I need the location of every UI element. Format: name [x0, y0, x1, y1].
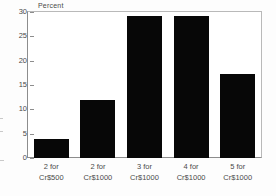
- y-axis-tick-label: 5: [23, 129, 27, 138]
- y-axis-tick-label: 10: [19, 104, 27, 113]
- y-axis-tick-label: 30: [19, 7, 27, 16]
- bar: [220, 74, 255, 158]
- y-axis-tick-label: 25: [19, 31, 27, 40]
- bar: [34, 139, 69, 158]
- x-axis-tick-label-line: Cr$1000: [75, 173, 122, 184]
- y-axis-tick-label: 20: [19, 56, 27, 65]
- x-axis-tick-label-line: Cr$1000: [214, 173, 261, 184]
- bar-chart-figure: Percent 051015202530 2 forCr$5002 forCr$…: [0, 0, 276, 196]
- x-axis-tick-label-line: 4 for: [168, 162, 215, 173]
- y-axis-title: Percent: [38, 2, 64, 9]
- y-axis-tick-label: 15: [19, 80, 27, 89]
- x-axis-tick-label-line: Cr$1000: [168, 173, 215, 184]
- scan-artifact: [0, 160, 4, 161]
- bar: [80, 100, 115, 158]
- x-axis-tick-label: 2 forCr$1000: [75, 162, 122, 183]
- x-axis-tick-label: 5 forCr$1000: [214, 162, 261, 183]
- y-axis-tick-mark: [30, 158, 34, 159]
- bar: [174, 16, 209, 158]
- x-axis-tick-label: 3 forCr$1000: [121, 162, 168, 183]
- x-axis-tick-label-line: Cr$1000: [121, 173, 168, 184]
- x-axis-tick-label: 2 forCr$500: [28, 162, 75, 183]
- x-axis-tick-label-line: 5 for: [214, 162, 261, 173]
- x-axis-tick-label-line: 2 for: [28, 162, 75, 173]
- bar: [127, 16, 162, 158]
- bars-container: [28, 12, 261, 158]
- x-axis-tick-label-line: Cr$500: [28, 173, 75, 184]
- x-axis-tick-label-line: 3 for: [121, 162, 168, 173]
- x-axis-tick-label-line: 2 for: [75, 162, 122, 173]
- scan-artifact: [0, 118, 3, 119]
- scan-artifact: [0, 131, 3, 132]
- y-axis-tick-label: 0: [23, 153, 27, 162]
- x-axis-tick-label: 4 forCr$1000: [168, 162, 215, 183]
